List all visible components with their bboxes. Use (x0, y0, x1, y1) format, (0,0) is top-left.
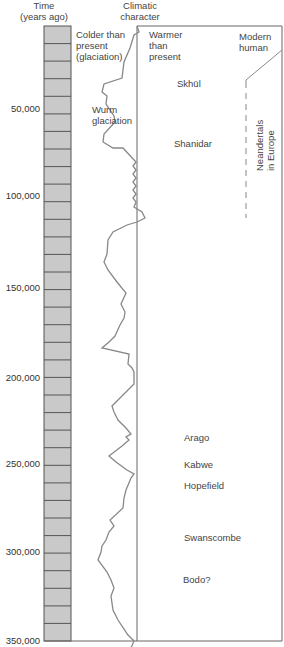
modern-human-line2: human (239, 42, 271, 53)
time-column (44, 26, 71, 641)
wurm-glaciation-label: Wurm glaciation (92, 104, 132, 126)
site-kabwe: Kabwe (184, 459, 213, 470)
warmer-than-present-label: Warmer than present (149, 29, 182, 62)
y-tick-50000: 50,000 (0, 103, 40, 114)
colder-line3: (glaciation) (76, 51, 125, 62)
site-shanidar: Shanidar (174, 138, 212, 149)
site-bodo: Bodo? (183, 574, 210, 585)
y-tick-100000: 100,000 (0, 190, 40, 201)
site-hopefield: Hopefield (184, 480, 224, 491)
site-swanscombe: Swanscombe (184, 532, 241, 543)
warmer-line1: Warmer (149, 29, 182, 40)
neandertals-in-europe-label: Neandertals in Europe (254, 120, 276, 171)
warmer-line2: than (149, 40, 182, 51)
neandertals-line2: in Europe (265, 120, 276, 171)
neandertals-line1: Neandertals (254, 120, 265, 171)
site-skhul: Skhūl (177, 78, 201, 89)
modern-human-label: Modern human (239, 31, 271, 53)
wurm-line1: Wurm (92, 104, 132, 115)
wurm-line2: glaciation (92, 115, 132, 126)
y-tick-300000: 300,000 (0, 546, 40, 557)
y-tick-150000: 150,000 (0, 282, 40, 293)
site-arago: Arago (184, 432, 209, 443)
time-header-line1: Time (4, 0, 84, 11)
time-header-line2: (years ago) (4, 11, 84, 22)
modern-human-line (246, 50, 282, 82)
modern-human-line1: Modern (239, 31, 271, 42)
climate-header: Climatic character (105, 0, 175, 22)
y-tick-200000: 200,000 (0, 372, 40, 383)
climate-header-line1: Climatic (105, 0, 175, 11)
time-header: Time (years ago) (4, 0, 84, 22)
diagram-graphics (0, 0, 284, 647)
y-tick-350000: 350,000 (0, 635, 40, 646)
colder-line2: present (76, 40, 125, 51)
climate-header-line2: character (105, 11, 175, 22)
warmer-line3: present (149, 51, 182, 62)
colder-line1: Colder than (76, 29, 125, 40)
colder-than-present-label: Colder than present (glaciation) (76, 29, 125, 62)
y-tick-250000: 250,000 (0, 458, 40, 469)
